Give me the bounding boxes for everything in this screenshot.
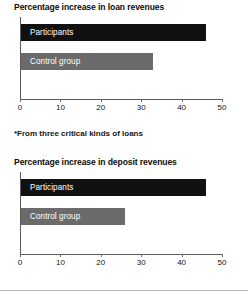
x-tick-30 <box>141 99 142 102</box>
x-tick-50 <box>222 254 223 257</box>
x-tick-10 <box>60 254 61 257</box>
x-tick-label-10: 10 <box>56 258 65 267</box>
x-tick-10 <box>60 99 61 102</box>
bar-control-group: Control group <box>21 53 153 70</box>
bar-participants: Participants <box>21 179 206 196</box>
bar-label-participants: Participants <box>21 28 73 37</box>
x-tick-label-50: 50 <box>218 103 227 112</box>
x-tick-20 <box>101 254 102 257</box>
x-tick-label-0: 0 <box>18 103 22 112</box>
chart-footnote: *From three critical kinds of loans <box>14 129 143 138</box>
x-tick-0 <box>20 99 21 102</box>
x-tick-label-20: 20 <box>96 103 105 112</box>
x-tick-50 <box>222 99 223 102</box>
x-axis-line <box>20 254 222 255</box>
bar-label-control-group: Control group <box>21 212 80 221</box>
bar-label-participants: Participants <box>21 183 73 192</box>
x-axis-line <box>20 99 222 100</box>
x-tick-label-40: 40 <box>177 103 186 112</box>
x-tick-label-10: 10 <box>56 103 65 112</box>
x-tick-40 <box>182 254 183 257</box>
bar-label-control-group: Control group <box>21 57 80 66</box>
bar-participants: Participants <box>21 24 206 41</box>
figure-root: Percentage increase in loan revenues 0 1… <box>0 0 248 299</box>
chart-title: Percentage increase in deposit revenues <box>14 157 177 167</box>
x-tick-40 <box>182 99 183 102</box>
plot-area: 0 10 20 30 40 50 Participants Control gr… <box>20 172 222 254</box>
x-tick-label-30: 30 <box>137 103 146 112</box>
bottom-divider <box>0 290 248 291</box>
x-tick-label-40: 40 <box>177 258 186 267</box>
x-tick-20 <box>101 99 102 102</box>
x-tick-label-20: 20 <box>96 258 105 267</box>
x-tick-label-50: 50 <box>218 258 227 267</box>
x-tick-30 <box>141 254 142 257</box>
x-tick-label-0: 0 <box>18 258 22 267</box>
plot-area: 0 10 20 30 40 50 Participants Control gr… <box>20 17 222 99</box>
x-tick-label-30: 30 <box>137 258 146 267</box>
chart-title: Percentage increase in loan revenues <box>14 2 164 12</box>
x-tick-0 <box>20 254 21 257</box>
bar-control-group: Control group <box>21 208 125 225</box>
